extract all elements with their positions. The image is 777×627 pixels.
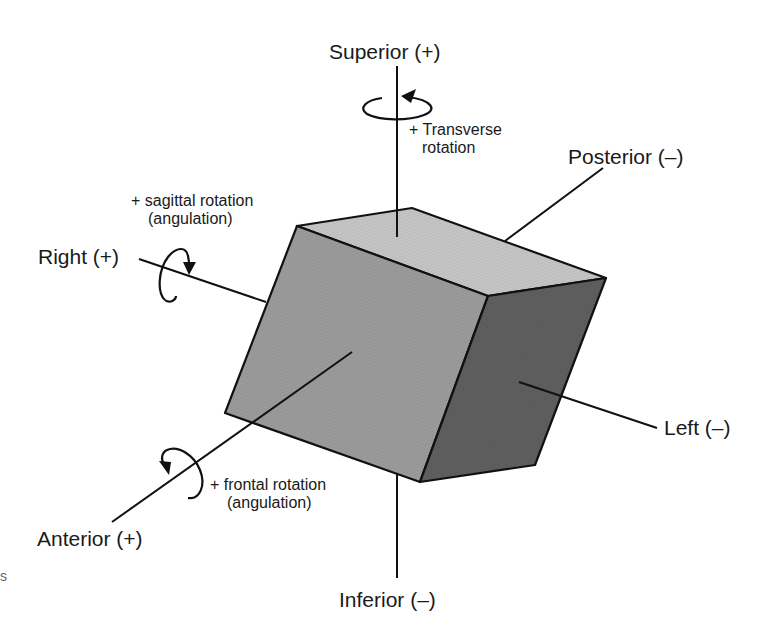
superior-label: Superior (+) — [329, 40, 440, 64]
transverse-rotation-label: + Transverse rotation — [409, 121, 502, 158]
posterior-axis-line — [505, 168, 603, 241]
sagittal-rotation-line2: (angulation) — [131, 210, 253, 228]
right-axis-line — [139, 259, 266, 302]
stray-text-fragment: s — [0, 568, 7, 584]
cube — [225, 208, 606, 482]
left-label: Left (–) — [664, 416, 731, 440]
sagittal-rotation-label: + sagittal rotation (angulation) — [131, 192, 253, 229]
posterior-label: Posterior (–) — [568, 145, 684, 169]
frontal-rotation-line2: (angulation) — [210, 494, 326, 512]
transverse-rotation-line1: + Transverse — [409, 121, 502, 139]
anatomical-axes-diagram: Superior (+) Posterior (–) Right (+) Lef… — [0, 0, 777, 627]
frontal-rotation-line1: + frontal rotation — [210, 476, 326, 494]
right-label: Right (+) — [38, 245, 119, 269]
transverse-rotation-line2: rotation — [409, 139, 502, 157]
inferior-label: Inferior (–) — [339, 588, 436, 612]
frontal-rotation-label: + frontal rotation (angulation) — [210, 476, 326, 513]
sagittal-rotation-line1: + sagittal rotation — [131, 192, 253, 210]
sagittal-rotation-arrow-icon — [160, 249, 196, 302]
anterior-label: Anterior (+) — [37, 527, 143, 551]
